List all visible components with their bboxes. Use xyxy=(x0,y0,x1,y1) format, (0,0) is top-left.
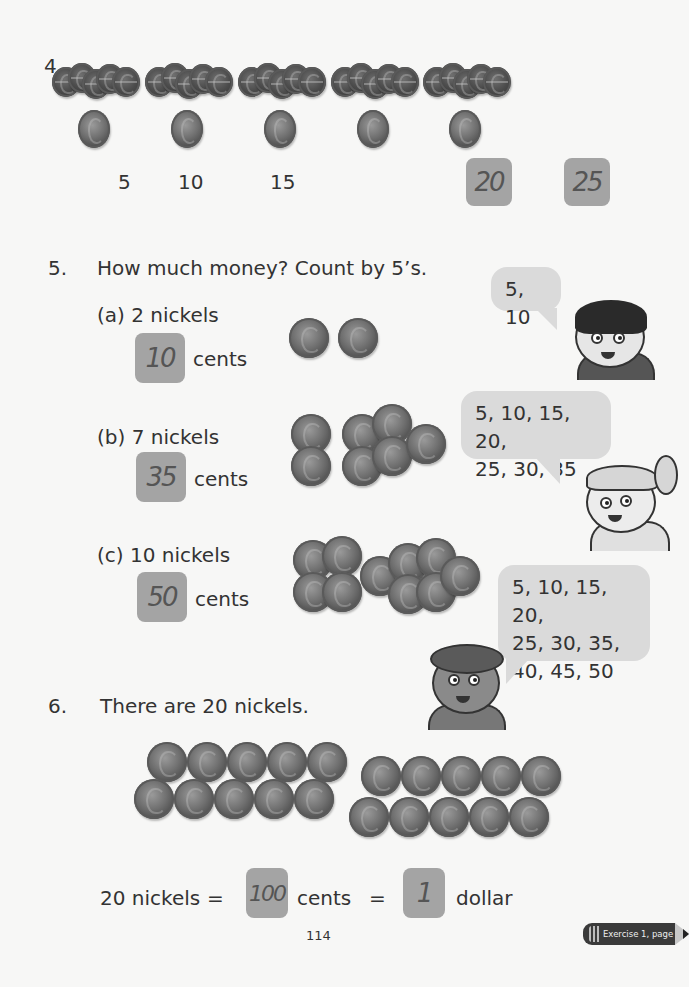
answer-box-20[interactable]: 20 xyxy=(466,158,512,206)
speech-bubble-1: 5, 10 xyxy=(491,267,561,311)
girl-character xyxy=(570,455,689,550)
nickel-coin-icon xyxy=(338,318,378,358)
equation-dollar: dollar xyxy=(456,886,513,910)
nickel-coin-icon xyxy=(357,110,389,148)
nickel-coin-icon xyxy=(481,756,521,796)
penny-coin-icon xyxy=(483,67,511,97)
section-5-prompt: How much money? Count by 5’s. xyxy=(97,256,427,280)
answer-box-c[interactable]: 50 xyxy=(137,572,187,622)
equation-left: 20 nickels xyxy=(100,886,200,910)
nickel-coin-icon xyxy=(171,110,203,148)
nickel-coin-icon xyxy=(389,797,429,837)
nickel-coin-icon xyxy=(322,572,362,612)
answer-box-25[interactable]: 25 xyxy=(564,158,610,206)
nickel-coin-icon xyxy=(441,756,481,796)
count-label-10: 10 xyxy=(178,170,203,194)
equals-sign-1: = xyxy=(207,886,224,910)
section-6-prompt: There are 20 nickels. xyxy=(100,694,309,718)
nickel-coin-icon xyxy=(134,779,174,819)
nickel-coin-icon xyxy=(174,779,214,819)
nickel-coin-icon xyxy=(349,797,389,837)
equation-cents: cents xyxy=(297,886,351,910)
bubble-1-tail xyxy=(535,308,557,330)
nickel-coin-icon xyxy=(147,742,187,782)
item-c-unit: cents xyxy=(195,587,249,611)
penny-coin-icon xyxy=(391,67,419,97)
item-b-label: (b) 7 nickels xyxy=(97,425,219,449)
section-5-number: 5. xyxy=(48,256,67,280)
nickel-coin-icon xyxy=(322,536,362,576)
item-a-unit: cents xyxy=(193,347,247,371)
nickel-coin-icon xyxy=(227,742,267,782)
count-label-5: 5 xyxy=(118,170,131,194)
answer-box-cents[interactable]: 100 xyxy=(246,868,288,918)
nickel-coin-icon xyxy=(78,110,110,148)
nickel-coin-icon xyxy=(406,424,446,464)
nickel-coin-icon xyxy=(264,110,296,148)
nickel-coin-icon xyxy=(469,797,509,837)
bubble-3-line-1: 5, 10, 15, 20, xyxy=(512,573,636,629)
boy-character-2 xyxy=(422,638,522,730)
nickel-coin-icon xyxy=(214,779,254,819)
answer-box-b[interactable]: 35 xyxy=(136,452,186,502)
answer-box-dollar[interactable]: 1 xyxy=(403,868,445,918)
bubble-3-line-3: 40, 45, 50 xyxy=(512,657,636,685)
nickel-coin-icon xyxy=(291,446,331,486)
item-a-label: (a) 2 nickels xyxy=(97,303,219,327)
pencil-lead-icon xyxy=(683,929,689,939)
exercise-reference-tag[interactable]: Exercise 1, page 186 xyxy=(583,923,675,945)
nickel-coin-icon xyxy=(187,742,227,782)
equals-sign-2: = xyxy=(369,886,386,910)
section-6-number: 6. xyxy=(48,694,67,718)
boy-character-1 xyxy=(565,300,665,380)
nickel-coin-icon xyxy=(521,756,561,796)
nickel-coin-icon xyxy=(449,110,481,148)
nickel-coin-icon xyxy=(509,797,549,837)
bubble-2-line-1: 5, 10, 15, 20, xyxy=(475,399,597,455)
penny-coin-icon xyxy=(205,67,233,97)
count-label-15: 15 xyxy=(270,170,295,194)
penny-coin-icon xyxy=(112,67,140,97)
item-b-unit: cents xyxy=(194,467,248,491)
nickel-coin-icon xyxy=(429,797,469,837)
pencil-stripes-icon xyxy=(589,926,599,942)
speech-bubble-2: 5, 10, 15, 20, 25, 30, 35 xyxy=(461,391,611,459)
nickel-coin-icon xyxy=(361,756,401,796)
nickel-coin-icon xyxy=(440,556,480,596)
penny-coin-icon xyxy=(298,67,326,97)
nickel-coin-icon xyxy=(254,779,294,819)
answer-box-a[interactable]: 10 xyxy=(135,333,185,383)
nickel-coin-icon xyxy=(289,318,329,358)
bubble-2-tail xyxy=(534,456,560,484)
bubble-3-line-2: 25, 30, 35, xyxy=(512,629,636,657)
item-c-label: (c) 10 nickels xyxy=(97,543,230,567)
nickel-coin-icon xyxy=(401,756,441,796)
nickel-coin-icon xyxy=(294,779,334,819)
nickel-coin-icon xyxy=(267,742,307,782)
page-number: 114 xyxy=(306,928,331,943)
nickel-coin-icon xyxy=(307,742,347,782)
